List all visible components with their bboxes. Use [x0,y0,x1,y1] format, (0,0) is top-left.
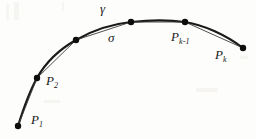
vertex-label-pk: Pk [215,48,227,61]
vertex-label-pk-minus-1: Pk-1 [171,30,190,43]
vertex-marker-p3 [73,37,79,43]
vertex-label-pkm1-sub: k-1 [179,37,190,46]
vertex-label-p1-base: P [31,112,39,127]
curve-gamma-label: γ [100,2,105,15]
vertex-marker-p1 [15,123,21,129]
vertex-label-p1: P1 [31,113,43,126]
vertex-label-p2-base: P [46,73,54,88]
vertex-label-pkm1-base: P [171,29,179,44]
vertex-label-p2-sub: 2 [54,81,58,90]
vertex-marker-p2 [34,75,40,81]
polygon-sigma-label: σ [108,31,114,44]
vertex-label-pk-base: P [215,47,223,62]
vertex-marker-p4 [128,19,134,25]
vertex-label-p1-sub: 1 [39,120,43,129]
vertex-marker-pk [240,45,246,51]
vertex-marker-pkm1 [182,19,188,25]
vertex-label-p2: P2 [46,74,58,87]
figure-container: γ σ P2 P1 Pk-1 Pk [0,0,256,139]
vertex-label-pk-sub: k [223,55,227,64]
